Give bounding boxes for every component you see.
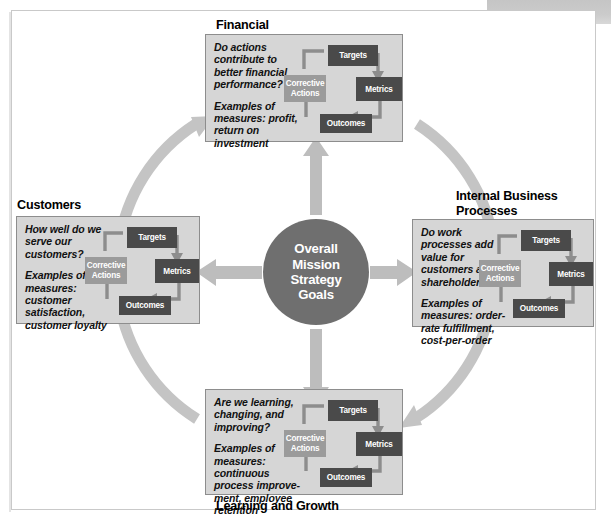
diagram-canvas: Financial Do actions contribute to bette… [0,0,611,527]
title-learning-and-growth: Learning and Growth [216,499,339,514]
corrective-line-2: Actions [486,274,515,283]
arrow-right-internal [370,259,417,286]
corrective-line-1: Corrective [481,264,520,273]
box-metrics-learning: Metrics [356,432,402,456]
panel-learning-and-growth: Are we learning, changing, and improving… [205,389,403,495]
center-line-3: Strategy [290,272,341,287]
box-outcomes-customers: Outcomes [119,296,171,315]
center-line-1: Overall [290,241,341,256]
box-outcomes-financial: Outcomes [320,114,372,133]
box-corrective-actions-internal: Corrective Actions [479,260,521,287]
box-corrective-actions-financial: Corrective Actions [284,75,326,102]
arrow-left-customers [196,259,262,286]
center-line-4: Goals [290,287,341,302]
center-circle-text: Overall Mission Strategy Goals [290,241,341,303]
center-line-2: Mission [290,257,341,272]
box-metrics-internal: Metrics [549,262,593,286]
corrective-line-1: Corrective [87,261,126,270]
box-targets-customers: Targets [127,227,177,248]
arrow-up-financial [303,137,329,215]
panel-internal-business-processes: Do work processes add value for customer… [412,219,594,327]
title-internal-business-processes: Internal Business Processes [456,189,596,218]
panel-customers: How well do we serve our customers? Exam… [16,216,200,324]
box-targets-financial: Targets [328,45,378,66]
corrective-line-2: Actions [291,89,320,98]
title-financial: Financial [216,18,269,33]
title-customers: Customers [17,198,81,213]
box-targets-learning: Targets [328,400,378,421]
box-metrics-financial: Metrics [356,77,402,101]
center-circle: Overall Mission Strategy Goals [263,219,369,325]
box-outcomes-learning: Outcomes [320,468,372,487]
box-targets-internal: Targets [521,230,571,251]
box-metrics-customers: Metrics [155,259,199,283]
panel-financial: Do actions contribute to better financia… [205,34,403,142]
corrective-line-2: Actions [291,444,320,453]
corrective-line-1: Corrective [286,434,325,443]
box-outcomes-internal: Outcomes [513,299,565,318]
box-corrective-actions-customers: Corrective Actions [85,257,127,284]
box-corrective-actions-learning: Corrective Actions [284,430,326,457]
corrective-line-2: Actions [92,271,121,280]
corrective-line-1: Corrective [286,79,325,88]
